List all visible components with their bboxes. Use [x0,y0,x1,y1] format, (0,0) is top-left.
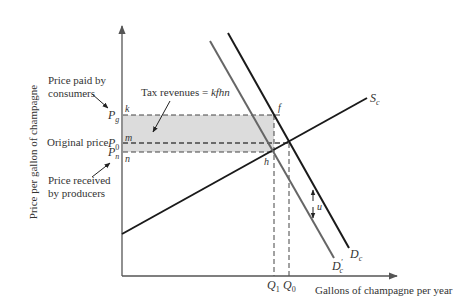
producers-annotation-line2: by producers [48,187,105,199]
point-m: m [125,132,132,143]
demand-label: Dc [349,247,363,263]
q1-label: Q1 [267,278,280,294]
point-f: f [278,102,282,113]
pg-label: Pg [107,108,119,124]
y-axis-label: Price per gallon of champagne [27,85,39,220]
consumers-annotation-line2: consumers [48,87,95,99]
supply-label: Sc [370,91,380,107]
tax-revenue-area [123,115,274,152]
u-label: u [317,201,322,212]
original-price-annotation: Original price [47,136,109,148]
point-k: k [125,103,130,114]
tax-revenues-label: Tax revenues = kfhn [141,86,230,98]
demand-shifted-label: D′c [331,258,343,275]
point-n: n [125,153,130,164]
consumers-annotation-line1: Price paid by [48,74,107,86]
q0-label: Q0 [283,278,296,294]
tax-incidence-diagram: u Price per gallon of champagne Gallons … [0,0,455,305]
point-h: h [264,156,269,167]
x-axis-label: Gallons of champagne per year [315,284,453,296]
producers-annotation-line1: Price received [48,174,111,186]
